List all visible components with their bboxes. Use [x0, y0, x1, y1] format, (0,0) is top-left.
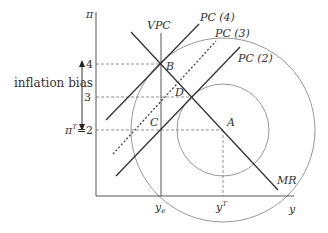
arrow-up-icon	[79, 60, 85, 67]
tick-4: 4	[86, 58, 93, 71]
pc4-label: PC (4)	[199, 11, 235, 24]
point-c: C	[150, 116, 159, 129]
pc2-line	[116, 47, 240, 176]
pc2-label: PC (2)	[237, 52, 273, 65]
inflation-bias-diagram: π y 4 3 πT=2 inflation bias ye yT VPC PC…	[0, 0, 328, 233]
point-a: A	[226, 116, 235, 129]
x-axis-label: y	[288, 203, 296, 216]
yT-label: yT	[215, 200, 228, 214]
pc3-label: PC (3)	[214, 27, 250, 40]
vpc-label: VPC	[147, 19, 171, 32]
point-d: D	[174, 86, 184, 99]
tick-target: πT=2	[64, 123, 93, 137]
y-axis-label: π	[85, 8, 94, 21]
pc4-line	[106, 24, 199, 120]
tick-3: 3	[84, 91, 91, 104]
inflation-bias-label: inflation bias	[14, 76, 93, 90]
ye-label: ye	[154, 201, 165, 215]
mr-label: MR	[276, 174, 297, 187]
point-b: B	[165, 60, 174, 73]
